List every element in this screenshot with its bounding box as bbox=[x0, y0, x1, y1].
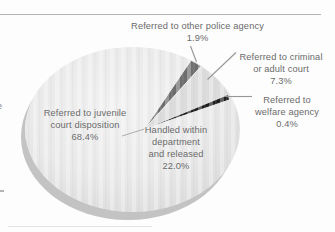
label-criminal-court-percent: 7.3% bbox=[239, 75, 322, 87]
label-criminal-court: Referred to criminal or adult court 7.3% bbox=[239, 51, 322, 87]
label-handled-text-3: and released bbox=[145, 148, 207, 160]
bottom-rule bbox=[8, 226, 152, 227]
label-juvenile-text-1: Referred to juvenile bbox=[44, 107, 127, 119]
label-handled-text-2: department bbox=[145, 136, 207, 148]
leader-line-other-police bbox=[191, 46, 197, 62]
label-welfare-agency: Referred to welfare agency 0.4% bbox=[255, 94, 319, 130]
edge-mark-fragment bbox=[0, 190, 4, 192]
label-handled-within-department: Handled within department and released 2… bbox=[145, 124, 207, 172]
label-other-police-percent: 1.9% bbox=[131, 32, 264, 44]
label-handled-text-1: Handled within bbox=[145, 124, 207, 136]
label-other-police-agency: Referred to other police agency 1.9% bbox=[131, 20, 264, 44]
label-juvenile-text-2: court disposition bbox=[44, 119, 127, 131]
label-welfare-text-1: Referred to bbox=[255, 94, 319, 106]
label-criminal-court-text-2: or adult court bbox=[239, 63, 322, 75]
label-criminal-court-text-1: Referred to criminal bbox=[239, 51, 322, 63]
edge-text-fragment: e bbox=[0, 102, 2, 111]
label-welfare-percent: 0.4% bbox=[255, 118, 319, 130]
label-juvenile-percent: 68.4% bbox=[44, 131, 127, 143]
label-handled-percent: 22.0% bbox=[145, 160, 207, 172]
leader-line-criminal-court bbox=[208, 53, 237, 80]
label-welfare-text-2: welfare agency bbox=[255, 106, 319, 118]
figure-pie-chart: Referred to other police agency 1.9% Ref… bbox=[0, 0, 335, 232]
label-other-police-text: Referred to other police agency bbox=[131, 20, 264, 32]
label-juvenile-court: Referred to juvenile court disposition 6… bbox=[44, 107, 127, 143]
